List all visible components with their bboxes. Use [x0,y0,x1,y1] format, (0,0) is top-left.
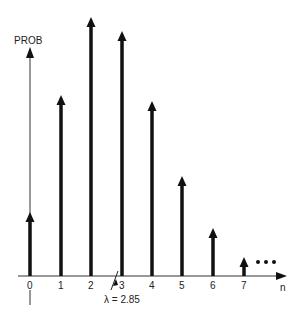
svg-text:1: 1 [58,280,64,291]
svg-text:7: 7 [241,280,247,291]
y-axis-label: PROB [14,35,43,46]
y-axis-arrow-icon [26,47,34,58]
stem-plot: PROB n 0 1 2 3 4 5 6 7 λ = 2.85 [0,0,299,315]
lambda-label: λ = 2.85 [104,294,140,305]
x-tick-labels: 0 1 2 3 4 5 6 7 [27,280,247,291]
svg-text:0: 0 [27,280,33,291]
lambda-marker [111,271,118,290]
svg-text:3: 3 [119,280,125,291]
stems [26,17,249,276]
svg-text:2: 2 [88,280,94,291]
svg-text:6: 6 [210,280,216,291]
x-axis-label: n [280,282,286,293]
svg-text:4: 4 [149,280,155,291]
x-axis-arrow-icon [276,272,287,280]
ellipsis-icon [256,260,276,264]
svg-text:5: 5 [179,280,185,291]
